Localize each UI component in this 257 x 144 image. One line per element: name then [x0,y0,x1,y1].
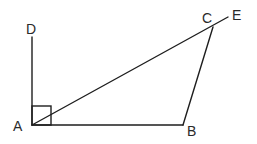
geometry-diagram: A B C D E [0,0,257,144]
point-label-b: B [187,123,196,139]
ray-ae [32,17,228,125]
point-label-a: A [13,118,23,134]
point-label-c: C [202,10,212,26]
point-label-d: D [26,21,36,37]
segment-bc [183,27,213,125]
point-label-e: E [232,7,241,23]
